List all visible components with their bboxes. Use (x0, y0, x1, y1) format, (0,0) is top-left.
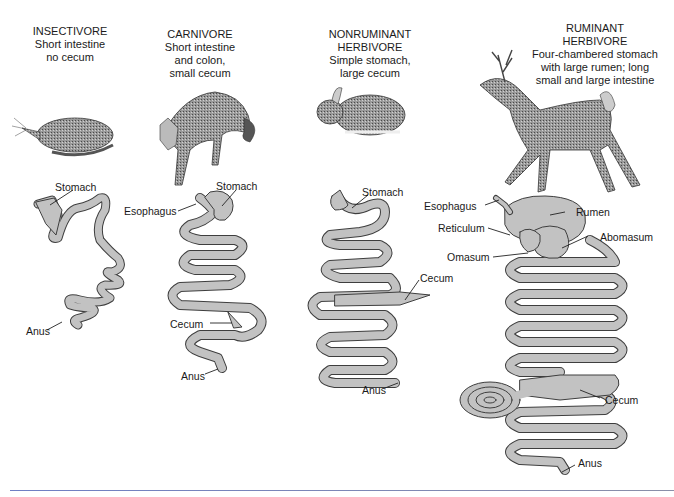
ruminant-esophagus-label: Esophagus (424, 200, 477, 212)
carnivore-gut (173, 191, 262, 368)
rabbit-illustration (317, 88, 405, 136)
insectivore-anus-label: Anus (26, 325, 50, 337)
deer-illustration (480, 50, 640, 192)
carnivore-esophagus-label: Esophagus (124, 205, 177, 217)
nonruminant-stomach-label: Stomach (362, 186, 403, 198)
bottom-rule (10, 490, 674, 491)
ruminant-anus-label: Anus (578, 457, 602, 469)
ruminant-omasum-label: Omasum (447, 251, 490, 263)
carnivore-stomach-label: Stomach (216, 180, 257, 192)
ruminant-abomasum-label: Abomasum (600, 231, 653, 243)
diagram-graphics (0, 0, 674, 497)
nonruminant-cecum-label: Cecum (420, 272, 453, 284)
ruminant-rumen-label: Rumen (576, 206, 610, 218)
carnivore-cecum-label: Cecum (170, 318, 203, 330)
insectivore-gut (36, 198, 120, 325)
ruminant-reticulum-label: Reticulum (438, 222, 485, 234)
carnivore-anus-label: Anus (181, 370, 205, 382)
ruminant-cecum-label: Cecum (605, 394, 638, 406)
nonruminant-anus-label: Anus (362, 384, 386, 396)
nonruminant-gut (313, 190, 431, 383)
insectivore-stomach-label: Stomach (55, 181, 96, 193)
ruminant-gut (460, 196, 623, 470)
shrew-illustration (12, 118, 113, 155)
fox-illustration (160, 92, 255, 185)
